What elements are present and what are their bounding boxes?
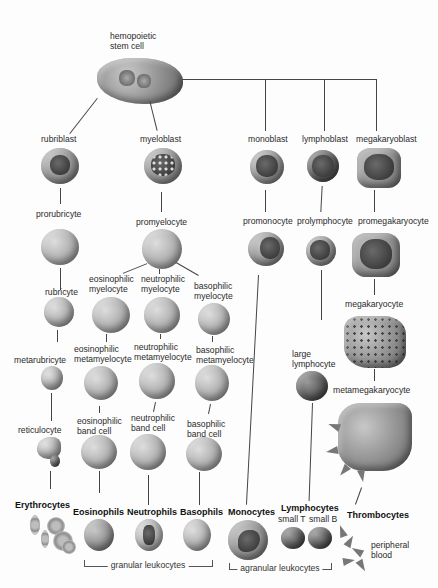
label-myeloblast: myeloblast [140, 134, 181, 144]
label-basophilic-band-cell: basophilic band cell [187, 419, 225, 439]
line1: eosinophilic [77, 416, 122, 426]
thrombocyte-image [342, 556, 355, 566]
connector [265, 79, 266, 131]
neutrophil-image [135, 519, 163, 551]
connector [320, 186, 322, 212]
thrombocyte-image [356, 559, 369, 573]
label-promonocyte: promonocyte [243, 216, 293, 226]
stem-cell-label: hemopoietic stem cell [110, 31, 156, 51]
label-monoblast: monoblast [248, 134, 288, 144]
thrombocyte-image [336, 524, 348, 538]
line1: basophilic [194, 281, 233, 291]
rubricyte-image [44, 297, 74, 327]
megakaryoblast-image [357, 148, 401, 188]
connector [69, 98, 97, 134]
connector [376, 79, 377, 131]
connector [99, 406, 100, 413]
label-lymphoblast: lymphoblast [302, 134, 348, 144]
platelet-fragment [325, 446, 338, 456]
connector [50, 471, 51, 489]
connector [309, 403, 313, 501]
connector [374, 369, 375, 381]
promegakaryocyte-image [352, 233, 400, 277]
prolymphocyte-image [306, 236, 336, 266]
metarubricyte-image [41, 366, 63, 390]
erythrocyte-image [41, 530, 49, 548]
eosinophil-image [84, 519, 114, 551]
label-megakaryocyte: megakaryocyte [345, 299, 403, 309]
label-basophilic-metamyelocyte: basophilic metamyelocyte [196, 345, 254, 365]
line2: myelocyte [89, 284, 134, 294]
connector [57, 330, 58, 342]
label-large-lymphocyte: large lymphocyte [292, 349, 335, 369]
label-thrombocytes: Thrombocytes [347, 510, 409, 520]
label-neutrophils: Neutrophils [127, 507, 177, 517]
label-rubricyte: rubricyte [45, 287, 78, 297]
line2: metamyelocyte [196, 355, 254, 365]
hematopoiesis-diagram: hemopoietic stem cell rubriblast myelobl… [0, 0, 438, 588]
basophilic-myelocyte-image [198, 303, 230, 335]
line2: metamyelocyte [74, 354, 132, 364]
connector [123, 263, 147, 274]
label-erythrocytes: Erythrocytes [15, 500, 70, 510]
metamegakaryocyte-image [338, 403, 412, 471]
connector [355, 487, 362, 504]
eosinophilic-myelocyte-image [92, 297, 130, 333]
label-prolymphocyte: prolymphocyte [297, 216, 353, 226]
myeloblast-image [144, 148, 182, 184]
basophil-image [183, 519, 211, 551]
neutrophilic-metamyelocyte-image [139, 363, 175, 399]
line2: band cell [131, 423, 175, 433]
label-peripheral-blood: peripheral blood [371, 540, 409, 560]
line2: lymphocyte [292, 359, 335, 369]
connector [99, 471, 100, 493]
small-b-lymphocyte-image [308, 527, 332, 549]
label-eosinophils: Eosinophils [73, 507, 124, 517]
label-eosinophilic-band-cell: eosinophilic band cell [77, 416, 122, 436]
rubriblast-image [41, 148, 79, 184]
stem-cell-label-line2: stem cell [110, 41, 156, 51]
connector [265, 190, 266, 212]
connector [60, 188, 61, 204]
connector [106, 334, 107, 342]
label-promyelocyte: promyelocyte [136, 217, 187, 227]
connector [374, 279, 375, 295]
basophilic-metamyelocyte-image [195, 365, 229, 401]
basophilic-band-cell-image [186, 437, 222, 471]
eosinophilic-metamyelocyte-image [84, 366, 118, 400]
label-megakaryoblast: megakaryoblast [356, 134, 417, 144]
line2: metamyelocyte [134, 352, 192, 362]
erythrocyte-image [30, 515, 40, 535]
label-basophilic-myelocyte: basophilic myelocyte [194, 281, 233, 301]
line1: eosinophilic [74, 344, 132, 354]
connector [246, 275, 259, 505]
extruded-nucleus-image [50, 455, 60, 467]
line1: neutrophilic [141, 274, 185, 284]
label-metarubricyte: metarubricyte [14, 355, 66, 365]
line1: peripheral [371, 540, 409, 550]
label-agranular-leukocytes: agranular leukocytes [237, 563, 322, 573]
monocyte-image [228, 520, 268, 560]
label-rubriblast: rubriblast [41, 134, 76, 144]
connector [182, 79, 377, 80]
label-eosinophilic-metamyelocyte: eosinophilic metamyelocyte [74, 344, 132, 364]
connector [153, 402, 156, 412]
promonocyte-image [248, 232, 284, 266]
line2: myelocyte [141, 284, 185, 294]
connector [149, 101, 157, 130]
label-small-t: small T [278, 514, 306, 524]
neutrophilic-myelocyte-image [144, 297, 180, 333]
connector [324, 79, 325, 131]
label-granular-leukocytes: granular leukocytes [108, 560, 189, 570]
megakaryocyte-image [344, 316, 406, 368]
stem-cell-image [97, 58, 183, 104]
small-t-lymphocyte-image [281, 527, 305, 549]
label-monocytes: Monocytes [228, 507, 275, 517]
line1: eosinophilic [89, 274, 134, 284]
line1: neutrophilic [134, 342, 192, 352]
platelet-fragment [357, 469, 367, 482]
connector [321, 270, 322, 320]
label-eosinophilic-myelocyte: eosinophilic myelocyte [89, 274, 134, 294]
label-neutrophilic-myelocyte: neutrophilic myelocyte [141, 274, 185, 294]
label-metamegakaryocyte: metamegakaryocyte [333, 385, 410, 395]
